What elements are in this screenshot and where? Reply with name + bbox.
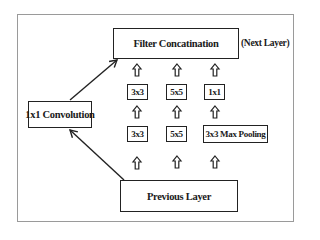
next-layer-annotation: (Next Layer) (241, 38, 289, 48)
conv-1x1-label: 1x1 Convolution (25, 109, 94, 120)
branch-1-bottom-node: 3x3 (127, 126, 148, 142)
branch-1-top-label: 3x3 (131, 87, 144, 97)
branch-2-top-label: 5x5 (170, 87, 183, 97)
branch-1-top-node: 3x3 (127, 84, 148, 100)
filter-concatenation-node: Filter Concatination (113, 28, 239, 59)
filter-concatenation-label: Filter Concatination (133, 38, 218, 49)
conv-1x1-node: 1x1 Convolution (28, 101, 92, 128)
branch-3-top-label: 1x1 (208, 87, 221, 97)
previous-layer-label: Previous Layer (147, 191, 211, 202)
branch-2-bottom-label: 5x5 (170, 129, 183, 139)
previous-layer-node: Previous Layer (120, 180, 238, 212)
branch-3-bottom-node: 3x3 Max Pooling (203, 125, 268, 143)
branch-3-bottom-label: 3x3 Max Pooling (206, 129, 266, 139)
branch-2-top-node: 5x5 (166, 84, 187, 100)
branch-2-bottom-node: 5x5 (166, 126, 187, 142)
branch-3-top-node: 1x1 (204, 84, 225, 100)
branch-1-bottom-label: 3x3 (131, 129, 144, 139)
